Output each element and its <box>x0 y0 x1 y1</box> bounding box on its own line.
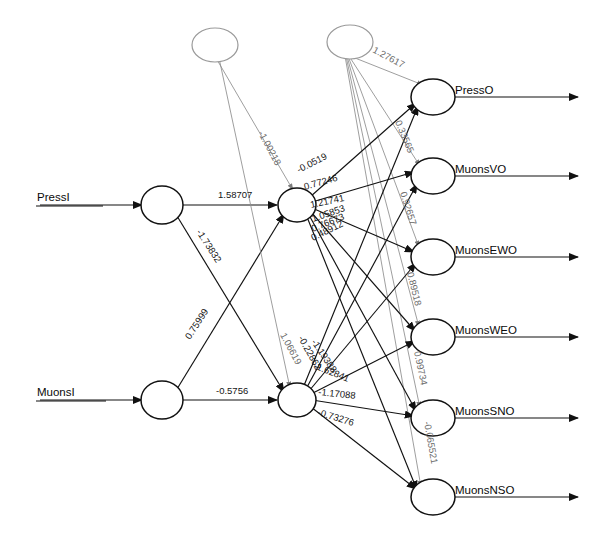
input-label-pressi: PressI <box>37 191 70 203</box>
weight-label-w_h2_o6: -0.73276 <box>316 406 355 427</box>
edges-output-arrows <box>455 97 578 497</box>
output-node-muonsvo[interactable] <box>411 158 455 194</box>
bias-node-2[interactable] <box>327 25 373 59</box>
weight-label-w_pressI_h1: 1.58707 <box>218 189 252 200</box>
input-labels: PressI MuonsI <box>36 191 106 401</box>
output-label-muonsweo: MuonsWEO <box>455 324 517 336</box>
output-label-muonsewo: MuonsEWO <box>455 244 517 256</box>
weight-label-w_h2_o5: -1.17088 <box>318 386 356 401</box>
output-node-presso[interactable] <box>411 79 455 115</box>
weight-label-w_muonsI_h1: 0.75999 <box>182 306 210 341</box>
weight-label-w_bias1_h1: -1.00218 <box>256 129 283 167</box>
output-node-muonsnso[interactable] <box>411 479 455 515</box>
hidden-node-2[interactable] <box>278 383 316 417</box>
input-node-muonsi[interactable] <box>141 381 183 419</box>
weight-label-w_pressI_h2: -1.73832 <box>194 227 224 264</box>
weight-label-w_h1_o2: 0.77246 <box>303 172 339 192</box>
input-node-pressi[interactable] <box>141 186 183 224</box>
output-labels: PressO MuonsVO MuonsEWO MuonsWEO MuonsSN… <box>455 84 517 496</box>
edges-input-to-hidden <box>40 205 284 400</box>
output-label-presso: PressO <box>455 84 493 96</box>
weight-label-w_b2_muonssno: 0.99734 <box>412 350 430 386</box>
nodes-group <box>141 25 455 515</box>
edges-bias <box>216 56 423 487</box>
weight-label-w_muonsI_h2: -0.5756 <box>216 385 248 396</box>
output-label-muonsnso: MuonsNSO <box>455 484 514 496</box>
neural-network-diagram: PressI MuonsI PressO MuonsVO MuonsEWO Mu… <box>0 0 595 543</box>
output-node-muonsewo[interactable] <box>411 239 455 275</box>
bias-node-1[interactable] <box>192 28 238 62</box>
weight-label-w_h1_o1: -0.0519 <box>295 150 329 174</box>
output-label-muonsvo: MuonsVO <box>455 163 506 175</box>
output-label-muonssno: MuonsSNO <box>455 405 514 417</box>
weight-label-w_b2_muonsvo: 0.33565 <box>393 118 417 154</box>
weight-label-w_bias2_press: 1.27617 <box>371 44 406 70</box>
weight-label-w_b2_muonsewo: 0.92657 <box>398 190 419 226</box>
weight-label-w_b2_muonsweo: 0.89518 <box>405 271 424 307</box>
output-node-muonsweo[interactable] <box>411 319 455 355</box>
input-label-muonsi: MuonsI <box>37 386 75 398</box>
